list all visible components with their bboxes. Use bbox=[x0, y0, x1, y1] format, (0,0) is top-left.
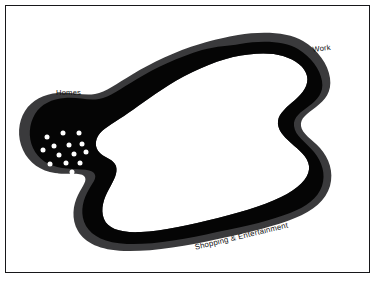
activity-dot bbox=[77, 131, 82, 136]
activity-dot bbox=[41, 148, 46, 153]
activity-dot bbox=[272, 190, 277, 195]
activity-dot bbox=[249, 77, 254, 82]
activity-dot bbox=[160, 192, 165, 197]
activity-dot bbox=[283, 164, 288, 169]
activity-dot bbox=[84, 150, 89, 155]
activity-dot bbox=[263, 186, 268, 191]
activity-dot bbox=[238, 184, 243, 189]
activity-dot bbox=[48, 162, 53, 167]
activity-dot bbox=[254, 180, 259, 185]
activity-dot bbox=[143, 212, 148, 217]
activity-dot bbox=[72, 152, 77, 157]
activity-dot bbox=[194, 178, 199, 183]
activity-dot bbox=[173, 186, 178, 191]
activity-dot bbox=[162, 211, 167, 216]
activity-dot bbox=[168, 216, 173, 221]
activity-dot bbox=[282, 79, 287, 84]
activity-dot bbox=[67, 143, 72, 148]
activity-dot bbox=[277, 153, 282, 158]
activity-dot bbox=[260, 170, 265, 175]
activity-dot bbox=[253, 148, 258, 153]
activity-dot bbox=[242, 196, 247, 201]
activity-dot bbox=[260, 68, 265, 73]
activity-dot bbox=[220, 184, 225, 189]
activity-dot bbox=[124, 204, 129, 209]
activity-dot bbox=[226, 161, 231, 166]
activity-dot bbox=[45, 135, 50, 140]
activity-dot bbox=[150, 208, 155, 213]
activity-dot bbox=[70, 170, 75, 175]
activity-dot bbox=[263, 158, 268, 163]
activity-dot bbox=[61, 131, 66, 136]
activity-dot bbox=[238, 168, 243, 173]
activity-dot bbox=[295, 160, 300, 165]
activity-dot bbox=[217, 166, 222, 171]
activity-dot bbox=[212, 180, 217, 185]
activity-dot bbox=[245, 176, 250, 181]
activity-dot bbox=[131, 211, 136, 216]
activity-dot bbox=[251, 193, 256, 198]
activity-dot bbox=[240, 154, 245, 159]
activity-dot bbox=[273, 65, 278, 70]
activity-dot bbox=[269, 76, 274, 81]
activity-dot bbox=[57, 153, 62, 158]
activity-dot bbox=[288, 175, 293, 180]
activity-dot bbox=[218, 199, 223, 204]
activity-dot bbox=[155, 200, 160, 205]
activity-dot bbox=[52, 144, 57, 149]
activity-dot bbox=[145, 195, 150, 200]
activity-dot bbox=[137, 203, 142, 208]
activity-dot bbox=[166, 204, 171, 209]
activity-dot bbox=[209, 194, 214, 199]
activity-dot bbox=[204, 172, 209, 177]
activity-dot bbox=[269, 163, 274, 168]
activity-dot bbox=[229, 190, 234, 195]
activity-dot bbox=[231, 174, 236, 179]
activity-dot bbox=[188, 192, 193, 197]
activity-dot bbox=[182, 182, 187, 187]
activity-dot bbox=[249, 164, 254, 169]
activity-dot bbox=[55, 174, 60, 179]
activity-dot bbox=[78, 161, 83, 166]
label-homes: Homes bbox=[56, 89, 81, 97]
activity-dot bbox=[80, 142, 85, 147]
activity-dot bbox=[263, 88, 268, 93]
activity-dot bbox=[155, 217, 160, 222]
activity-dot bbox=[284, 68, 289, 73]
activity-dot bbox=[64, 161, 69, 166]
activity-dot bbox=[274, 171, 279, 176]
diagram-canvas: Homes Work Shopping & Entertainment bbox=[0, 0, 377, 286]
activity-dot bbox=[266, 58, 271, 63]
activity-dot bbox=[196, 198, 201, 203]
activity-dot bbox=[200, 188, 205, 193]
activity-dot bbox=[130, 196, 135, 201]
activity-dot bbox=[176, 196, 181, 201]
